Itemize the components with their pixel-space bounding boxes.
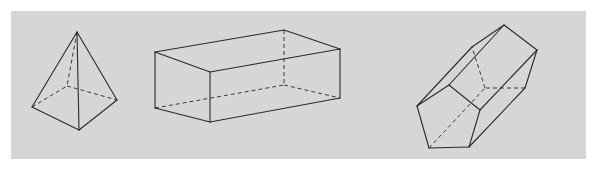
visible-edge [155, 108, 210, 122]
pentagonal-prism [417, 25, 537, 148]
visible-edge [210, 98, 340, 122]
visible-edge [429, 147, 469, 148]
visible-edge [504, 25, 537, 50]
visible-edge [449, 85, 480, 110]
visible-edge [155, 30, 284, 52]
visible-edge [77, 32, 117, 100]
visible-edge [480, 50, 537, 110]
square-pyramid [32, 32, 117, 130]
hidden-edge [155, 85, 284, 108]
visible-edge [77, 32, 79, 130]
geometric-solids-figure [0, 0, 596, 169]
visible-edge [32, 107, 79, 130]
visible-edge [449, 25, 504, 85]
visible-edge [155, 52, 210, 72]
visible-edge [284, 30, 340, 49]
visible-edge [417, 106, 429, 148]
rectangular-prism [155, 30, 340, 122]
visible-edge [472, 25, 504, 47]
hidden-edge [284, 85, 340, 98]
visible-edge [79, 100, 117, 130]
visible-edge [210, 49, 340, 72]
hidden-edge [32, 86, 67, 107]
